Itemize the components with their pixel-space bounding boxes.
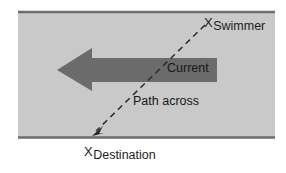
swimmer-marker: X bbox=[204, 15, 213, 30]
destination-marker: X bbox=[84, 144, 93, 159]
current-arrow-label: Current bbox=[167, 62, 209, 75]
destination-point-label: XDestination bbox=[84, 143, 155, 159]
destination-label-text: Destination bbox=[93, 148, 156, 162]
swimmer-label-text: Swimmer bbox=[213, 19, 265, 33]
river-crossing-diagram: XSwimmer XDestination Current Path acros… bbox=[0, 0, 286, 173]
path-across-label: Path across bbox=[133, 95, 199, 108]
swimmer-point-label: XSwimmer bbox=[204, 14, 265, 30]
